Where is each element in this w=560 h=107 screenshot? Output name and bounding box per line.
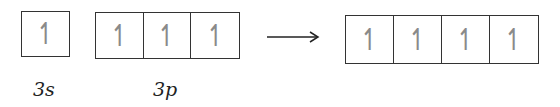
orbital-group-hybrid: ↿ ↿ ↿ ↿ (345, 15, 539, 64)
up-spin-electron-icon: ↿ (504, 25, 524, 55)
right-arrow-icon (265, 30, 321, 44)
label-3p: 3p (153, 78, 177, 100)
orbital-box: ↿ (490, 16, 538, 63)
up-spin-electron-icon: ↿ (205, 21, 225, 51)
orbital-box: ↿ (346, 16, 394, 63)
up-spin-electron-icon: ↿ (407, 25, 427, 55)
orbital-group-3p: ↿ ↿ ↿ (95, 12, 240, 59)
up-spin-electron-icon: ↿ (455, 25, 475, 55)
orbital-box: ↿ (191, 13, 239, 58)
orbital-box: ↿ (96, 13, 144, 58)
label-3s: 3s (33, 78, 55, 100)
orbital-group-3s: ↿ (21, 11, 70, 57)
up-spin-electron-icon: ↿ (109, 21, 129, 51)
orbital-box: ↿ (22, 12, 69, 56)
orbital-box: ↿ (394, 16, 442, 63)
up-spin-electron-icon: ↿ (359, 25, 379, 55)
up-spin-electron-icon: ↿ (157, 21, 177, 51)
up-spin-electron-icon: ↿ (35, 19, 55, 49)
orbital-box: ↿ (442, 16, 490, 63)
orbital-box: ↿ (144, 13, 192, 58)
